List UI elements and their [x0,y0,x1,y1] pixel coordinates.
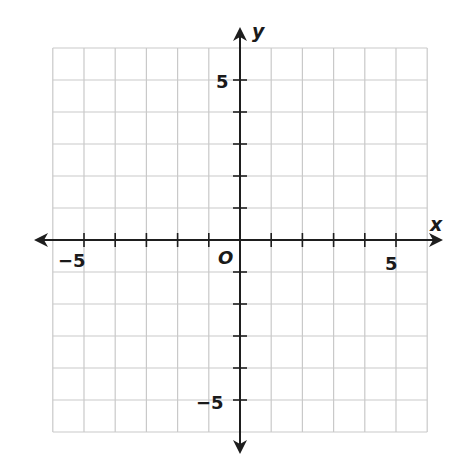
y-tick-label-neg5: −5 [196,392,224,413]
origin-label: O [218,247,233,268]
x-tick-label-neg5: −5 [58,250,86,271]
y-tick-label-5: 5 [216,71,229,92]
y-axis-label: y [252,20,266,42]
axes [34,27,443,454]
x-tick-label-5: 5 [385,253,398,274]
coordinate-plane: x y O −5 5 5 −5 [0,0,469,465]
x-axis-label: x [429,213,443,235]
